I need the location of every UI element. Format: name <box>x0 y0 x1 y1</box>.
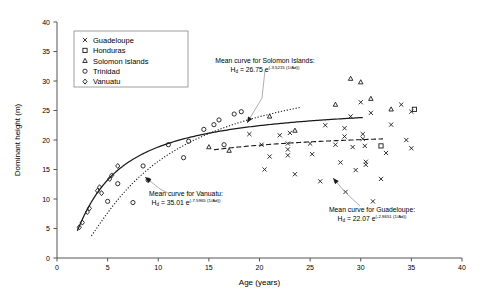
data-point <box>348 76 352 80</box>
annotation-guadeloupe-equation: Hd = 22.07 e(-2.8651 (1/Ad)) <box>338 214 407 223</box>
data-point <box>323 123 327 127</box>
legend-label: Solomon Islands <box>93 57 149 66</box>
data-point <box>412 107 416 111</box>
data-point <box>293 128 297 132</box>
data-point <box>361 137 365 141</box>
y-tick-label: 25 <box>42 107 50 114</box>
legend: GuadeloupeHondurasSolomon IslandsTrinida… <box>74 31 188 87</box>
data-point <box>351 145 355 149</box>
legend-label: Honduras <box>93 46 126 55</box>
data-point <box>288 131 292 135</box>
data-point <box>286 153 290 157</box>
data-point <box>371 199 375 203</box>
annotation-vanuatu-equation: Hd = 35.01 e(-7.5965 (1/Ad)) <box>152 198 221 207</box>
annotation-solomon-line1: Mean curve for Solomon Islands: <box>215 57 314 64</box>
scatter-plot-canvas: 05101520253035400510152025303540Age (yea… <box>0 0 487 298</box>
data-point <box>404 138 408 142</box>
annotation-solomon-equation: Hd = 26.75 e(-3.5215 (1/Ad)) <box>231 65 300 74</box>
annotation-solomon-arrowhead <box>247 117 252 123</box>
chart-figure: 05101520253035400510152025303540Age (yea… <box>0 0 487 298</box>
data-point <box>268 154 272 158</box>
data-point <box>384 151 388 155</box>
annotation-vanuatu: Mean curve for Vanuatu:Hd = 35.01 e(-7.5… <box>145 177 223 207</box>
data-point <box>338 160 342 164</box>
data-point <box>342 126 346 130</box>
annotation-solomon: Mean curve for Solomon Islands:Hd = 26.7… <box>215 57 314 123</box>
x-tick-label: 10 <box>154 264 162 271</box>
data-point <box>267 114 271 118</box>
y-tick-label: 30 <box>42 78 50 85</box>
y-tick-label: 40 <box>42 19 50 26</box>
data-point <box>247 132 251 136</box>
legend-label: Guadeloupe <box>93 36 134 45</box>
data-point <box>359 80 363 84</box>
data-point <box>359 100 363 104</box>
data-point <box>379 177 383 181</box>
x-tick-label: 30 <box>357 264 365 271</box>
data-point <box>187 139 191 143</box>
data-point <box>212 123 216 127</box>
data-point <box>409 146 413 150</box>
data-point <box>379 144 383 148</box>
data-point <box>286 147 290 151</box>
data-point <box>239 110 243 114</box>
data-point <box>116 163 120 168</box>
y-tick-label: 20 <box>42 137 50 144</box>
annotation-solomon-leader <box>247 70 265 123</box>
data-point <box>364 163 368 167</box>
data-point <box>354 168 358 172</box>
data-point <box>361 132 365 136</box>
data-point <box>181 156 185 160</box>
data-point <box>333 102 337 106</box>
data-point <box>369 96 373 100</box>
data-point <box>106 199 110 203</box>
data-point <box>389 107 393 111</box>
data-point <box>318 179 322 183</box>
data-point <box>232 112 236 116</box>
data-point <box>333 143 337 147</box>
curve-solid <box>77 118 363 231</box>
curve-dashed <box>214 139 383 150</box>
y-axis-title: Dominant height (m) <box>13 103 22 176</box>
x-tick-label: 35 <box>407 264 415 271</box>
x-tick-label: 40 <box>458 264 466 271</box>
x-tick-label: 15 <box>205 264 213 271</box>
data-point <box>310 152 314 156</box>
series-guadeloupe <box>247 100 413 203</box>
y-tick-label: 15 <box>42 166 50 173</box>
data-point <box>262 167 266 171</box>
data-point <box>227 148 231 152</box>
curve-dotted <box>91 107 300 235</box>
y-tick-label: 10 <box>42 196 50 203</box>
data-point <box>293 172 297 176</box>
series-solomon-islands <box>207 76 394 152</box>
legend-label: Trinidad <box>93 67 120 76</box>
series-honduras <box>379 107 417 148</box>
data-point <box>202 127 206 131</box>
x-axis-title: Age (years) <box>239 278 281 287</box>
y-tick-label: 5 <box>46 225 50 232</box>
data-point <box>131 200 135 204</box>
data-point <box>399 103 403 107</box>
data-point <box>363 144 367 148</box>
x-tick-label: 25 <box>306 264 314 271</box>
y-tick-label: 0 <box>46 255 50 262</box>
x-tick-label: 5 <box>106 264 110 271</box>
data-point <box>389 123 393 127</box>
data-point <box>141 164 145 168</box>
data-point <box>369 111 373 115</box>
legend-label: Vanuatu <box>93 77 120 86</box>
data-point <box>116 182 120 186</box>
y-tick-label: 35 <box>42 48 50 55</box>
data-point <box>217 118 221 122</box>
data-point <box>342 134 346 138</box>
x-tick-label: 20 <box>256 264 264 271</box>
data-point <box>308 141 312 145</box>
x-tick-label: 0 <box>55 264 59 271</box>
data-point <box>222 143 226 147</box>
data-point <box>99 191 103 196</box>
annotation-guadeloupe-line1: Mean curve for Guadeloupe: <box>329 206 415 214</box>
data-point <box>278 133 282 137</box>
data-point <box>207 145 211 149</box>
annotation-vanuatu-line1: Mean curve for Vanuatu: <box>149 190 223 197</box>
